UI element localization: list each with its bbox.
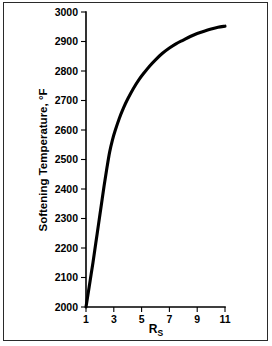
- y-tick-label-2200: 2200: [55, 242, 79, 254]
- chart-figure: 2000210022002300240025002600270028002900…: [0, 0, 272, 346]
- x-axis-title: RS: [149, 322, 164, 338]
- x-tick-label-9: 9: [194, 313, 200, 325]
- y-tick-label-2300: 2300: [55, 212, 79, 224]
- y-axis-title: Softening Temperature, °F: [37, 88, 49, 231]
- y-tick-label-2600: 2600: [55, 124, 79, 136]
- y-tick-label-2700: 2700: [55, 94, 79, 106]
- y-tick-label-2900: 2900: [55, 35, 79, 47]
- y-tick-label-2400: 2400: [55, 183, 79, 195]
- x-tick-label-1: 1: [83, 313, 89, 325]
- y-tick-label-2000: 2000: [55, 301, 79, 313]
- y-tick-label-2800: 2800: [55, 65, 79, 77]
- y-tick-label-2500: 2500: [55, 153, 79, 165]
- softening-temperature-chart: 2000210022002300240025002600270028002900…: [0, 0, 272, 346]
- x-tick-label-7: 7: [166, 313, 172, 325]
- x-tick-label-5: 5: [139, 313, 145, 325]
- y-axis-tick-labels: 2000210022002300240025002600270028002900…: [55, 6, 79, 313]
- x-axis-title-subscript: S: [158, 328, 164, 338]
- x-tick-label-3: 3: [111, 313, 117, 325]
- x-tick-label-11: 11: [219, 313, 230, 325]
- y-tick-label-3000: 3000: [55, 6, 79, 18]
- y-tick-label-2100: 2100: [55, 271, 79, 283]
- x-axis-title-main: R: [149, 322, 158, 336]
